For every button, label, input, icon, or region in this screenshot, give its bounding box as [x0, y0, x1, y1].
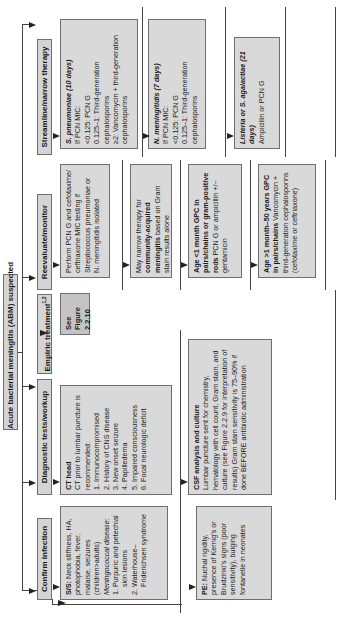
stem-confirm: [52, 604, 182, 605]
spine-line: [22, 25, 23, 591]
box-ct-head: CT head CT prior to lumbar puncture is r…: [60, 385, 172, 495]
arrow-streamline-icon: [29, 22, 36, 28]
nm-item: If PCN MIC:: [161, 24, 170, 144]
guide-reeval-1: [122, 160, 123, 290]
ct-item: 5. Impaired consciousness: [130, 390, 139, 490]
box-age-1-month-50-years: Age >1 month–50 years GPC in pairs/chain…: [258, 164, 316, 278]
guide-stream-4: [335, 7, 336, 157]
header-diagnostic-tests: Diagnostic tests/workup: [37, 379, 52, 495]
guide-reeval-2: [180, 160, 181, 290]
spn-item: ≥2: Vancomycin + third-generation cephal…: [111, 24, 130, 144]
ct-item: 2. History of CNS disease: [102, 390, 111, 490]
stem-confirm-top: [52, 599, 53, 605]
arrow-reevaluate-icon: [29, 275, 36, 281]
arrow-empiric-icon: [29, 384, 36, 390]
drop-diagnostic: [22, 494, 23, 495]
pcn-text: Perform PCN G and cefotaxime/ ceftriaxon…: [64, 170, 101, 273]
lis-text: Ampicillin or PCN G: [257, 42, 266, 144]
drop-reevaluate: [22, 289, 23, 290]
ct-item: 1. Immunocompromised: [92, 390, 101, 490]
ss-item: 1. Purpuric and petechial skin lesions: [111, 511, 130, 595]
guide-reeval-3: [250, 160, 251, 290]
guide-confirm: [180, 500, 181, 613]
title-box: Acute bacterial meningitis (ABM) suspect…: [3, 274, 18, 430]
pe-label: PE:: [200, 583, 209, 595]
arrow-into-nm-icon: [143, 133, 150, 139]
guide-stream-2: [225, 7, 226, 157]
arrow-into-pcn-icon: [53, 262, 60, 268]
csf-text: Lumbar puncture sent for chemistry, hema…: [201, 344, 248, 490]
arrow-into-ct-icon: [53, 479, 60, 485]
box-physical-exam: PE: Nuchal rigidity, presence of Kernig'…: [196, 506, 272, 600]
flowchart-rotated: Acute bacterial meningitis (ABM) suspect…: [0, 0, 351, 623]
ct-item: 6. Focal neurologic deficit: [139, 390, 148, 490]
ct-title: CT head: [64, 390, 73, 490]
footnote-sup: 1,2: [41, 297, 47, 304]
arrow-ss-icon: [58, 600, 66, 606]
arrow-into-age2-icon: [251, 262, 258, 268]
ct-item: 4. Papilledema: [120, 390, 129, 490]
header-streamline-therapy: Streamline/narrow therapy: [37, 39, 52, 155]
narrow-pre: May narrow therapy for: [134, 199, 143, 273]
arrow-diagnostic-icon: [29, 480, 36, 486]
arrow-into-spn-icon: [53, 133, 60, 139]
box-see-figure: See Figure 2.2.10: [60, 293, 90, 335]
box-pcn-mic-testing: Perform PCN G and cefotaxime/ ceftriaxon…: [60, 164, 110, 278]
ct-text: CT prior to lumbar puncture is recommend…: [73, 390, 92, 490]
ss-item: 2. Waterhouse–Friderichsen syndrome: [130, 511, 149, 595]
ss-label: S/S:: [64, 581, 73, 595]
nm-title: N. meningitidis (7 days): [152, 63, 161, 144]
ct-item: 3. New onset seizure: [111, 390, 120, 490]
arrow-into-csf-icon: [181, 479, 188, 485]
arrow-into-age1-icon: [181, 262, 188, 268]
guide-bottom-right: [335, 290, 336, 500]
spn-item: <0.125: PCN G: [83, 24, 92, 144]
see-figure-text: See Figure 2.2.10: [64, 307, 92, 330]
box-signs-symptoms: S/S: Neck stiffness, HA, photophobia, fe…: [60, 506, 168, 600]
box-narrow-therapy: May narrow therapy for community-acquire…: [130, 164, 172, 278]
arrow-into-ss-icon: [53, 584, 60, 590]
box-listeria: Listeria or S. agalactiae (21 days) Ampi…: [234, 37, 280, 149]
spn-title: S. pneumoniae (10 days): [64, 60, 73, 144]
csf-title: CSF analysis and culture: [192, 344, 201, 490]
ss-subhead: Meningococcal disease:: [102, 511, 111, 595]
spn-item: If PCN MIC:: [73, 24, 82, 144]
box-csf-analysis: CSF analysis and culture Lumbar puncture…: [188, 339, 272, 495]
box-age-under-1-month: Age <1 month GPC in pairs/chains or gram…: [188, 164, 242, 278]
arrow-confirm-icon: [29, 588, 36, 594]
spn-item: 0.125–1: Third-generation cephalosporins: [92, 24, 111, 144]
arrow-into-narrow-icon: [123, 262, 130, 268]
lis-title: Listeria or S. agalactiae (21 days): [238, 51, 256, 144]
title: Acute bacterial meningitis (ABM) suspect…: [6, 262, 15, 429]
arrow-into-lis-icon: [227, 133, 234, 139]
nm-item: <0.125: PCN G: [171, 24, 180, 144]
guide-diagnostic: [180, 330, 181, 500]
nm-item: 0.125–1: Third-generation cephalosporins: [180, 24, 199, 144]
box-s-pneumoniae: S. pneumoniae (10 days) If PCN MIC: <0.1…: [60, 19, 138, 149]
header-confirm-infection: Confirm infection: [37, 518, 52, 600]
arrow-empiric-see-icon: [40, 330, 48, 336]
box-n-meningitidis: N. meningitidis (7 days) If PCN MIC: <0.…: [148, 19, 206, 149]
guide-reeval-4: [325, 160, 326, 290]
header-reevaluate-monitor: Reevaluate/monitor: [37, 194, 52, 290]
guide-stream-3: [285, 7, 286, 157]
arrow-into-pe-icon: [189, 584, 196, 590]
